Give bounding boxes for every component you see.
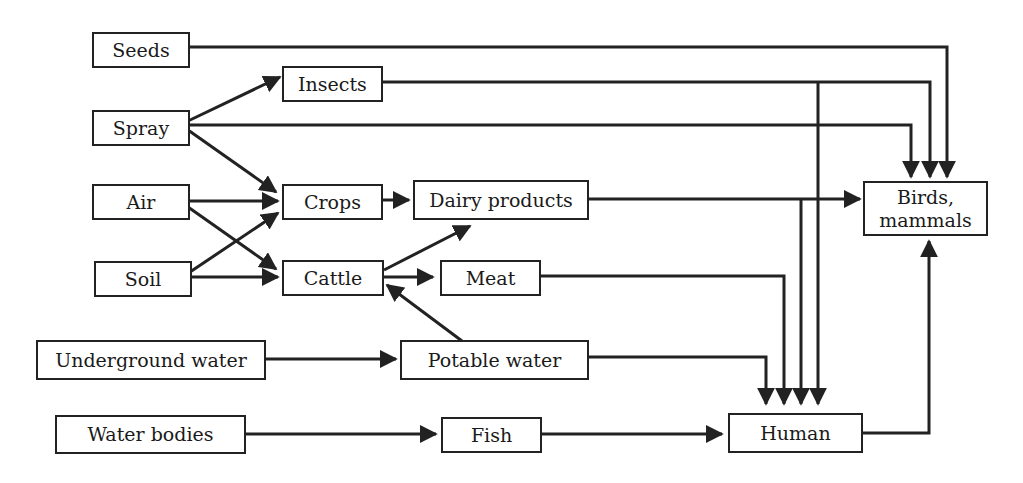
node-human: Human bbox=[728, 413, 863, 453]
edge-soil-crops bbox=[190, 213, 278, 272]
node-fish: Fish bbox=[441, 417, 542, 453]
node-potable-water: Potable water bbox=[400, 340, 589, 380]
node-insects: Insects bbox=[282, 66, 383, 102]
connector-layer bbox=[0, 0, 1023, 483]
edge-potable-human bbox=[588, 357, 766, 404]
diagram-canvas: Seeds Spray Air Soil Underground water W… bbox=[0, 0, 1023, 483]
node-seeds: Seeds bbox=[92, 32, 190, 68]
edge-spray-insects bbox=[188, 77, 280, 121]
edge-air-cattle bbox=[188, 207, 276, 269]
node-air: Air bbox=[92, 184, 190, 220]
edge-insects-birds bbox=[382, 82, 930, 177]
node-underground-water: Underground water bbox=[36, 340, 266, 380]
node-birds-mammals: Birds, mammals bbox=[863, 181, 988, 236]
node-soil: Soil bbox=[94, 261, 192, 297]
node-spray: Spray bbox=[92, 110, 190, 146]
node-meat: Meat bbox=[440, 260, 541, 296]
node-dairy-products: Dairy products bbox=[413, 180, 589, 220]
edge-human-birds bbox=[862, 241, 929, 433]
node-water-bodies: Water bodies bbox=[55, 415, 246, 454]
edge-spray-crops bbox=[188, 130, 276, 192]
edge-spray-birds bbox=[188, 125, 911, 177]
node-cattle: Cattle bbox=[282, 260, 384, 296]
node-crops: Crops bbox=[282, 184, 383, 220]
